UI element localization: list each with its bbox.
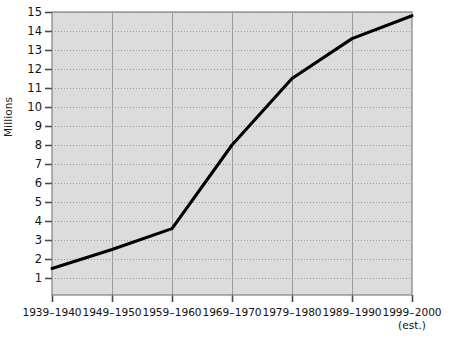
y-axis-tick-label: 12 [16, 63, 42, 75]
line-chart: Millions 123456789101112131415 1939–1940… [0, 0, 452, 342]
y-axis-tick-label: 14 [16, 25, 42, 37]
y-axis-ticks [45, 13, 52, 279]
x-axis-tick-label-text: 1999–2000 [382, 306, 441, 318]
y-axis-tick-label: 11 [16, 82, 42, 94]
y-axis-tick-label: 6 [16, 177, 42, 189]
chart-canvas [0, 0, 452, 342]
y-axis-tick-label: 10 [16, 101, 42, 113]
y-axis-tick-label: 13 [16, 44, 42, 56]
x-axis-tick-label: 1999–2000(est.) [369, 306, 452, 332]
y-axis-tick-label: 8 [16, 139, 42, 151]
y-axis-tick-label: 9 [16, 120, 42, 132]
y-axis-tick-label: 5 [16, 196, 42, 208]
y-axis-tick-label: 2 [16, 253, 42, 265]
x-axis-ticks [53, 295, 413, 302]
y-axis-tick-label: 1 [16, 272, 42, 284]
x-axis-tick-sublabel: (est.) [369, 319, 452, 332]
y-axis-tick-label: 7 [16, 158, 42, 170]
y-axis-tick-label: 4 [16, 215, 42, 227]
y-axis-tick-label: 15 [16, 6, 42, 18]
y-axis-tick-label: 3 [16, 234, 42, 246]
